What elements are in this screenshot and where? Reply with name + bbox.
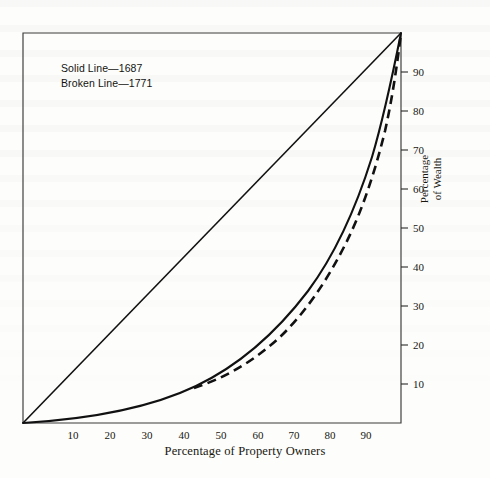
y-axis-title: Percentage of Wealth [418,124,443,234]
legend-item-solid-1687: Solid Line—1687 [61,61,153,76]
legend-item-broken-1771: Broken Line—1771 [61,76,153,91]
y-tick-label-80: 80 [413,105,424,117]
x-tick-label-10: 10 [68,429,79,441]
figure-page: Solid Line—1687 Broken Line—1771 10 20 3… [0,0,490,478]
y-tick-label-10: 10 [413,378,424,390]
y-tick-label-40: 40 [413,261,424,273]
x-tick-label-50: 50 [216,429,227,441]
x-tick-label-80: 80 [325,429,336,441]
y-tick-label-20: 20 [413,339,424,351]
y-axis-title-line-2: of Wealth [431,124,444,234]
x-tick-label-20: 20 [105,429,116,441]
x-axis-title: Percentage of Property Owners [0,444,490,459]
x-tick-label-70: 70 [289,429,300,441]
legend: Solid Line—1687 Broken Line—1771 [61,61,153,90]
lorenz-curve-1771 [194,33,401,388]
y-tick-label-30: 30 [413,300,424,312]
x-tick-label-40: 40 [179,429,190,441]
x-tick-label-60: 60 [253,429,264,441]
x-tick-label-90: 90 [361,429,372,441]
x-tick-label-30: 30 [142,429,153,441]
y-axis-ticks [401,72,408,384]
y-axis-title-line-1: Percentage [418,124,431,234]
y-tick-label-90: 90 [413,66,424,78]
